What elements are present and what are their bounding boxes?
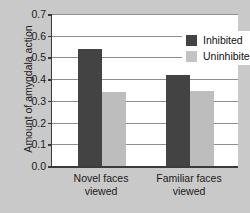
y-tick-mark xyxy=(48,144,52,146)
legend-item-uninhibited: Uninhibited xyxy=(186,50,250,62)
y-tick-label: 0.3 xyxy=(31,95,46,107)
bar xyxy=(190,91,214,166)
y-tick-label: 0.1 xyxy=(31,138,46,150)
y-tick-label: 0.0 xyxy=(31,160,46,172)
y-tick-mark xyxy=(48,79,52,81)
bar xyxy=(102,92,126,166)
y-tick-label: 0.6 xyxy=(31,30,46,42)
y-tick-mark xyxy=(48,166,52,168)
bar-chart-figure: Amount of amygdala action 0.70.60.50.40.… xyxy=(0,0,250,213)
y-tick-label: 0.5 xyxy=(31,51,46,63)
y-tick-label: 0.4 xyxy=(31,73,46,85)
x-axis-label-line: Novel faces xyxy=(51,172,151,185)
y-tick-mark xyxy=(48,14,52,16)
x-axis-label-line: viewed xyxy=(139,185,239,198)
x-axis-label: Novel facesviewed xyxy=(51,172,151,197)
legend-label: Uninhibited xyxy=(203,50,250,62)
bar xyxy=(166,75,190,166)
y-tick-label: 0.2 xyxy=(31,117,46,129)
x-axis-label-line: Familiar faces xyxy=(139,172,239,185)
gridline xyxy=(52,14,238,15)
legend: Inhibited Uninhibited xyxy=(182,31,250,65)
y-tick-mark xyxy=(48,57,52,59)
plot-area: 0.70.60.50.40.30.20.10.0 Inhibited Uninh… xyxy=(51,14,238,168)
y-tick-label: 0.7 xyxy=(31,8,46,20)
y-tick-mark xyxy=(48,36,52,38)
legend-label: Inhibited xyxy=(203,34,243,46)
bar xyxy=(78,49,102,166)
x-axis-label: Familiar facesviewed xyxy=(139,172,239,197)
y-tick-mark xyxy=(48,123,52,125)
legend-item-inhibited: Inhibited xyxy=(186,34,250,46)
y-tick-mark xyxy=(48,101,52,103)
legend-swatch-icon xyxy=(186,51,197,62)
legend-swatch-icon xyxy=(186,35,197,46)
x-axis-label-line: viewed xyxy=(51,185,151,198)
